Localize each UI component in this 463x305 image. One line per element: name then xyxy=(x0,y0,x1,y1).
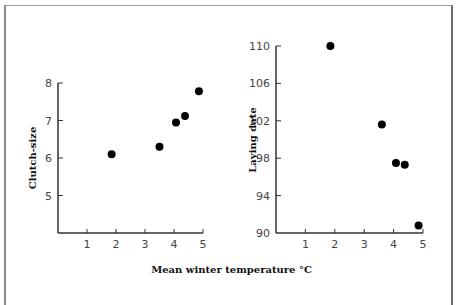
right-data-point xyxy=(401,161,409,169)
left-y-tick-label: 6 xyxy=(45,152,52,165)
left-x-tick-label: 2 xyxy=(113,238,120,251)
right-y-tick-label: 106 xyxy=(249,77,270,90)
right-data-point xyxy=(392,159,400,167)
right-y-tick-label: 98 xyxy=(256,152,270,165)
right-x-tick-label: 2 xyxy=(331,238,338,251)
right-y-tick-label: 90 xyxy=(256,227,270,240)
right-data-point xyxy=(415,222,423,230)
right-x-tick-label: 4 xyxy=(390,238,397,251)
right-y-tick-label: 94 xyxy=(256,190,270,203)
left-y-tick-label: 7 xyxy=(45,115,52,128)
left-y-tick-label: 8 xyxy=(45,77,52,90)
left-y-tick-label: 5 xyxy=(45,190,52,203)
left-x-tick-label: 4 xyxy=(171,238,178,251)
left-data-point xyxy=(108,150,116,158)
left-data-point xyxy=(195,87,203,95)
right-x-tick-label: 1 xyxy=(302,238,309,251)
right-y-tick-label: 110 xyxy=(249,40,270,53)
left-y-axis-title: Clutch-size xyxy=(27,127,38,190)
shared-x-axis-title: Mean winter temperature °C xyxy=(0,264,463,275)
left-x-tick-label: 1 xyxy=(84,238,91,251)
right-x-tick-label: 5 xyxy=(420,238,427,251)
right-y-axis-title: Laying date xyxy=(247,107,258,172)
right-data-point xyxy=(326,42,334,50)
left-data-point xyxy=(181,112,189,120)
left-x-tick-label: 5 xyxy=(200,238,207,251)
right-data-point xyxy=(378,121,386,129)
left-x-tick-label: 3 xyxy=(142,238,149,251)
left-data-point xyxy=(172,118,180,126)
left-data-point xyxy=(156,143,164,151)
right-x-tick-label: 3 xyxy=(361,238,368,251)
